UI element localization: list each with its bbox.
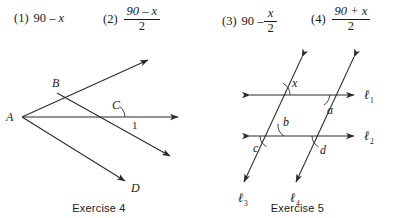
exercise-5-diagram: x a b c d ℓ 1 ℓ 2 ℓ 3 ℓ 4 — [198, 46, 397, 218]
choice-3-lead: 90 – — [242, 14, 264, 29]
answer-choice-4[interactable]: (4) 90 + x 2 — [311, 5, 371, 33]
choice-1-variable: x — [59, 11, 65, 25]
caption-exercise-5: Exercise 5 — [198, 202, 397, 214]
choice-2-denominator: 2 — [136, 20, 148, 33]
choice-3-fraction: x 2 — [264, 7, 276, 35]
caption-exercise-4: Exercise 4 — [0, 202, 198, 214]
answer-choice-2[interactable]: (2) 90 – x 2 — [103, 5, 161, 33]
angle-label-b: b — [283, 115, 289, 129]
choice-4-denominator: 2 — [345, 20, 357, 33]
choice-4-fraction: 90 + x 2 — [332, 5, 371, 33]
answer-choice-1[interactable]: (1) 90 – x — [14, 11, 64, 26]
angle-label-a: a — [327, 103, 333, 117]
line-label-l1: ℓ 1 — [364, 87, 374, 105]
angle-label-c: c — [253, 141, 259, 155]
choice-expression-1: 90 – x — [34, 11, 65, 26]
choice-number-1: (1) — [14, 11, 29, 26]
line-l4 — [296, 57, 354, 182]
choice-1-lead: 90 – — [34, 11, 59, 25]
angle-label-d: d — [320, 143, 327, 157]
line-label-l2-sub: 2 — [370, 137, 374, 146]
exercise-4-diagram: A B C D 1 — [0, 46, 198, 218]
figure-exercise-4: A B C D 1 Exercise 4 — [0, 46, 198, 218]
choice-number-2: (2) — [103, 12, 118, 27]
answer-choices-row: (1) 90 – x (2) 90 – x 2 (3) 90 – x 2 (4) — [0, 0, 397, 46]
line-label-l2: ℓ 2 — [364, 128, 374, 146]
page-root: (1) 90 – x (2) 90 – x 2 (3) 90 – x 2 (4) — [0, 0, 397, 218]
angle-label-x: x — [291, 76, 298, 90]
point-label-b: B — [52, 76, 60, 90]
choice-4-numerator: 90 + x — [332, 5, 371, 18]
choice-number-4: (4) — [311, 12, 326, 27]
point-label-d: D — [130, 181, 140, 195]
point-label-c: C — [112, 98, 121, 112]
line-label-l1-sub: 1 — [370, 96, 374, 105]
angle-1-arc — [120, 106, 126, 117]
figure-exercise-5: x a b c d ℓ 1 ℓ 2 ℓ 3 ℓ 4 Exercise 5 — [198, 46, 397, 218]
angle-label-1: 1 — [132, 119, 138, 131]
choice-3-numerator: x — [265, 7, 277, 20]
choice-number-3: (3) — [222, 14, 237, 29]
choice-3-denominator: 2 — [264, 22, 276, 35]
point-label-a: A — [5, 110, 14, 124]
ray-a-lower-d — [22, 117, 125, 181]
choice-2-numerator: 90 – x — [124, 5, 161, 18]
answer-choice-3[interactable]: (3) 90 – x 2 — [222, 7, 278, 35]
choice-2-fraction: 90 – x 2 — [124, 5, 161, 33]
